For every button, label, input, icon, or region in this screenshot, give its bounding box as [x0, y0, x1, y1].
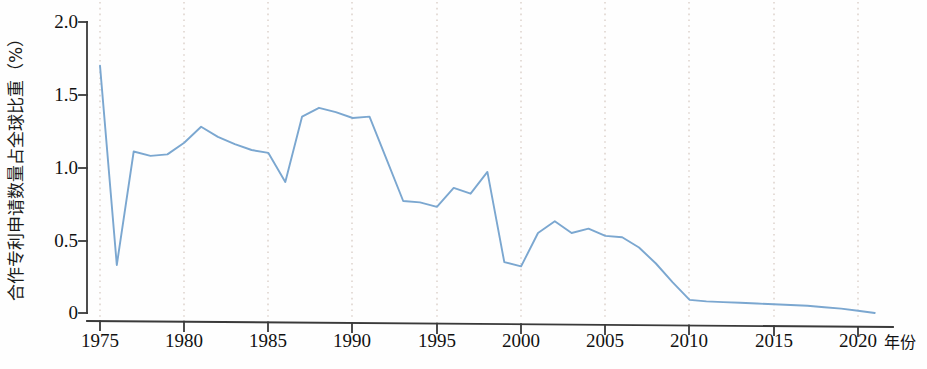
- x-tick-label-2020: 2020: [839, 330, 877, 352]
- x-tick-label-2005: 2005: [586, 330, 624, 352]
- chart-figure: 合作专利申请数量占全球比重（%） 2.0 1.5 1.0 0.5 0: [0, 0, 927, 369]
- x-tick-label-2015: 2015: [755, 330, 793, 352]
- x-tick-labels: 1975 1980 1985 1990 1995 2000 2005 2010 …: [0, 0, 927, 369]
- x-tick-label-1995: 1995: [418, 330, 456, 352]
- x-tick-label-2000: 2000: [502, 330, 540, 352]
- x-tick-label-1985: 1985: [249, 330, 287, 352]
- x-axis-unit-label: 年份: [884, 329, 916, 353]
- x-tick-label-1980: 1980: [165, 330, 203, 352]
- x-tick-label-2010: 2010: [670, 330, 708, 352]
- x-tick-label-1975: 1975: [81, 330, 119, 352]
- x-tick-label-1990: 1990: [333, 330, 371, 352]
